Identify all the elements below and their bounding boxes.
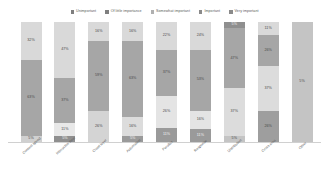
x-axis-label-slot: Response — [185, 143, 215, 171]
stacked-bar[interactable]: 16%63%16%5% — [122, 22, 143, 142]
bar-segment-label: 37% — [231, 110, 238, 114]
bar-segment[interactable]: 37% — [258, 66, 279, 110]
bar-segment[interactable]: 11% — [190, 129, 211, 142]
bar-segment[interactable]: 32% — [21, 22, 42, 60]
bar-segment-label: 16% — [129, 125, 136, 129]
bar-segment-label: 37% — [264, 87, 271, 91]
bar-segment-label: 47% — [61, 48, 68, 52]
stacked-bar[interactable]: 11%26%37%26% — [258, 22, 279, 142]
x-axis-label: Parallax — [162, 141, 174, 152]
bar-slot: 22%37%26%11% — [152, 22, 182, 142]
bar-segment[interactable]: 11% — [258, 22, 279, 35]
bar-segment-label: 16% — [129, 30, 136, 34]
bar-segment-label: 24% — [197, 34, 204, 38]
legend-swatch-icon — [229, 10, 233, 14]
bar-segment[interactable]: 47% — [54, 22, 75, 78]
legend-swatch-icon — [105, 10, 109, 14]
bar-segment[interactable]: 24% — [190, 22, 211, 50]
bar-segment[interactable]: 16% — [88, 22, 109, 41]
stacked-bar[interactable]: 5%47%37%5% — [224, 22, 245, 142]
legend-swatch-icon — [199, 10, 203, 14]
bar-segment-label: 5% — [299, 80, 304, 84]
bar-segment[interactable]: 11% — [156, 128, 177, 142]
bar-segment[interactable]: 37% — [54, 78, 75, 122]
bar-slot: 16%59%26% — [84, 22, 114, 142]
bar-segment-label: 16% — [95, 30, 102, 34]
bar-segment-label: 26% — [95, 125, 102, 129]
stacked-bar[interactable]: 24%53%16%11% — [190, 22, 211, 142]
legend-item[interactable]: Important — [199, 10, 220, 14]
bar-segment-label: 11% — [163, 133, 170, 137]
bar-segment[interactable]: 63% — [122, 41, 143, 117]
bar-segment[interactable]: 16% — [190, 111, 211, 129]
bar-segment-label: 16% — [197, 118, 204, 122]
legend-swatch-icon — [71, 10, 75, 14]
x-axis-label-slot: Content speed — [16, 143, 46, 171]
bar-segment[interactable]: 26% — [88, 111, 109, 142]
legend-item[interactable]: Of little importance — [105, 10, 141, 14]
legend-item-label: Important — [204, 10, 220, 14]
bar-segment-label: 5% — [232, 23, 237, 27]
x-axis-label-slot: Automation — [118, 143, 148, 171]
bar-segment-label: 11% — [61, 128, 68, 132]
bar-segment[interactable]: 53% — [190, 50, 211, 111]
bar-segment[interactable]: 5% — [292, 22, 313, 142]
bar-segment-label: 47% — [231, 57, 238, 61]
bar-slot: 5% — [287, 22, 317, 142]
bar-segment[interactable]: 26% — [258, 35, 279, 66]
legend-item-label: Unimportant — [76, 10, 96, 14]
legend-item[interactable]: Very important — [229, 10, 258, 14]
bar-segment[interactable]: 26% — [156, 96, 177, 129]
bar-segment-label: 63% — [129, 77, 136, 81]
bar-segment[interactable]: 16% — [122, 22, 143, 41]
bar-segment-label: 59% — [95, 74, 102, 78]
stacked-bar-chart: UnimportantOf little importanceSomewhat … — [0, 0, 329, 171]
bar-segment[interactable]: 37% — [224, 88, 245, 135]
bar-segment-label: 5% — [130, 137, 135, 141]
bar-segment-label: 11% — [265, 27, 272, 31]
bar-segment[interactable]: 26% — [258, 111, 279, 142]
bar-segment[interactable]: 11% — [54, 123, 75, 136]
stacked-bar[interactable]: 22%37%26%11% — [156, 22, 177, 142]
bar-slot: 5%47%37%5% — [219, 22, 249, 142]
legend-item[interactable]: Somewhat important — [151, 10, 190, 14]
legend-swatch-icon — [151, 10, 155, 14]
chart-legend: UnimportantOf little importanceSomewhat … — [0, 6, 329, 18]
x-axis-label-slot: Cross area — [253, 143, 283, 171]
bar-segment[interactable]: 16% — [122, 117, 143, 136]
bar-segment[interactable]: 59% — [88, 41, 109, 111]
bar-segment[interactable]: 47% — [224, 28, 245, 88]
x-axis-label-slot: Distribution — [219, 143, 249, 171]
bar-segment[interactable]: 37% — [156, 50, 177, 96]
legend-item-label: Very important — [235, 10, 259, 14]
bar-segment-label: 22% — [163, 34, 170, 38]
bar-slot: 24%53%16%11% — [185, 22, 215, 142]
legend-item-label: Somewhat important — [156, 10, 190, 14]
stacked-bar[interactable]: 47%37%11%5% — [54, 22, 75, 142]
bar-segment-label: 26% — [163, 110, 170, 114]
bar-segment-label: 63% — [27, 96, 34, 100]
bar-slot: 16%63%16%5% — [118, 22, 148, 142]
x-axis-labels: Content speedInteractive timeCrawl layer… — [16, 143, 317, 171]
chart-plot-area: 32%63%5%47%37%11%5%16%59%26%16%63%16%5%2… — [16, 22, 317, 142]
bar-slot: 32%63%5% — [16, 22, 46, 142]
x-axis-label-slot: Crawl layer — [84, 143, 114, 171]
x-axis-label-slot: Interactive time — [50, 143, 80, 171]
x-axis-label-slot: Parallax — [152, 143, 182, 171]
stacked-bar[interactable]: 5% — [292, 22, 313, 142]
bar-segment[interactable]: 22% — [156, 22, 177, 50]
bar-segment-label: 26% — [264, 125, 271, 129]
legend-item-label: Of little importance — [111, 10, 142, 14]
bar-segment-label: 53% — [197, 78, 204, 82]
bar-segment-label: 32% — [27, 39, 34, 43]
stacked-bar[interactable]: 16%59%26% — [88, 22, 109, 142]
bar-slot: 47%37%11%5% — [50, 22, 80, 142]
bar-segment-label: 37% — [163, 71, 170, 75]
bar-segment[interactable]: 63% — [21, 60, 42, 136]
x-axis-label: Other — [299, 142, 308, 151]
bar-segment-label: 26% — [264, 49, 271, 53]
stacked-bar[interactable]: 32%63%5% — [21, 22, 42, 142]
legend-item[interactable]: Unimportant — [71, 10, 97, 14]
bar-slot: 11%26%37%26% — [253, 22, 283, 142]
bar-segment-label: 37% — [61, 99, 68, 103]
